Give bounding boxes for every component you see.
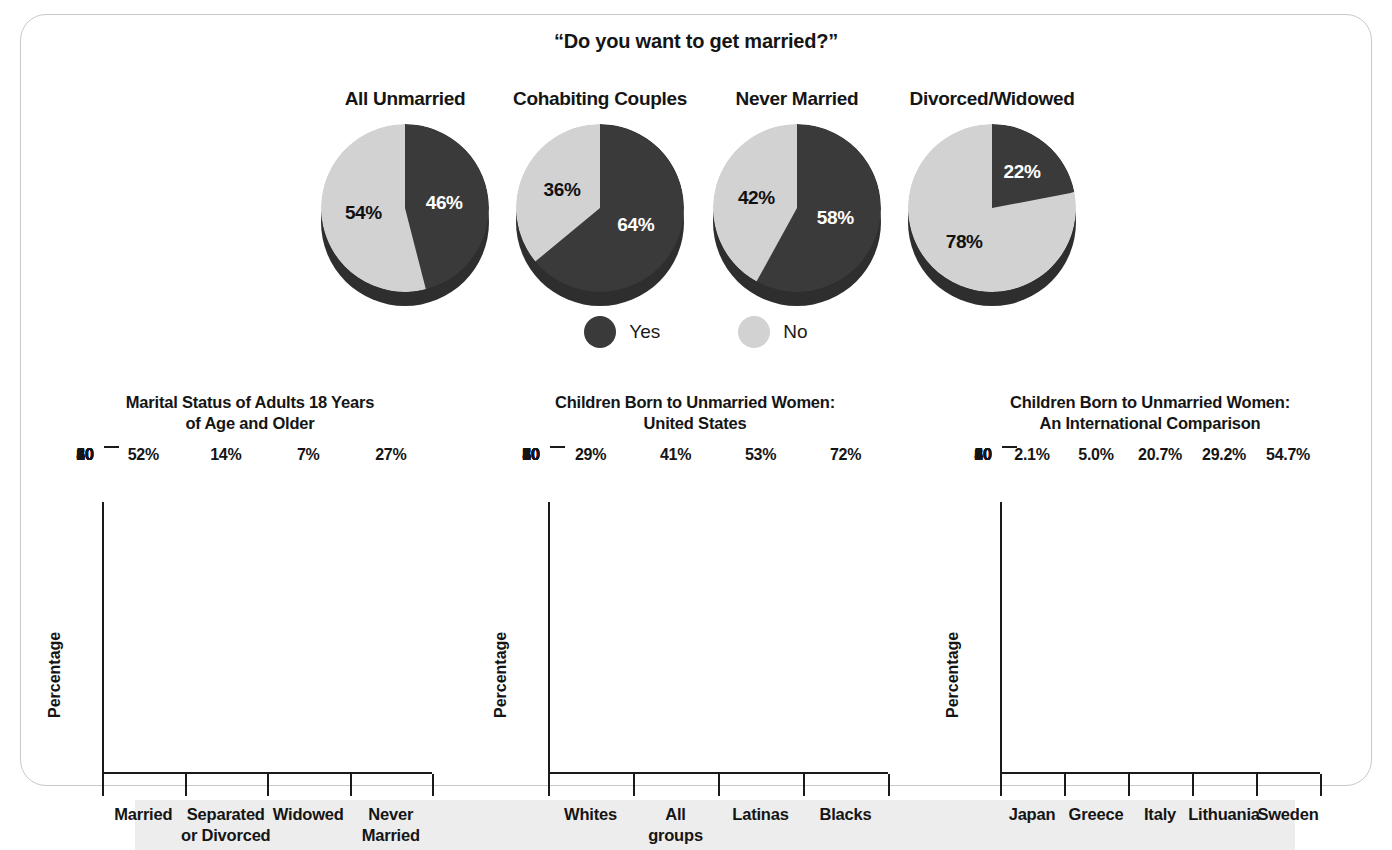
- pie-slice-value-yes: 64%: [617, 214, 654, 236]
- x-axis-separator-tick: [718, 774, 720, 796]
- plot-area: 6050403020100Percentage52%Married14%Sepa…: [30, 446, 470, 836]
- bar-chart-title-line1: Children Born to Unmarried Women:: [930, 392, 1370, 413]
- x-axis-separator-tick: [432, 774, 434, 796]
- bar-chart-title: Children Born to Unmarried Women:United …: [470, 392, 920, 434]
- pie-chart-block-2: Cohabiting Couples64%36%: [485, 88, 715, 310]
- bar-value-label: 5.0%: [1064, 446, 1128, 464]
- x-axis-line: [1000, 772, 1320, 774]
- y-axis-line: [1000, 502, 1002, 772]
- bar-value-label: 27%: [350, 446, 433, 464]
- pie-disc: [516, 124, 684, 292]
- category-label-line: Married: [338, 825, 445, 846]
- x-axis-separator-tick: [1000, 774, 1002, 796]
- pie-slice-value-no: 42%: [738, 187, 775, 209]
- pie-slice-value-no: 54%: [345, 202, 382, 224]
- x-axis-separator-tick: [185, 774, 187, 796]
- bar-value-label: 29.2%: [1192, 446, 1256, 464]
- bar-value-label: 72%: [803, 446, 888, 464]
- bar-chart-title-line2: of Age and Older: [30, 413, 470, 434]
- y-axis-tick-label: 0: [954, 446, 992, 464]
- bar-value-label: 52%: [102, 446, 185, 464]
- plot-area: 80706050403020100Percentage29%Whites41%A…: [470, 446, 920, 836]
- category-label-line: Blacks: [791, 804, 900, 825]
- pie-slice-value-yes: 58%: [817, 207, 854, 229]
- pie-chart[interactable]: 58%42%: [713, 124, 881, 310]
- legend-swatch-icon: [584, 316, 616, 348]
- pie-chart[interactable]: 22%78%: [908, 124, 1076, 310]
- x-axis-separator-tick: [803, 774, 805, 796]
- bar-chart-title: Marital Status of Adults 18 Yearsof Age …: [30, 392, 470, 434]
- bar-chart-panel-1: Marital Status of Adults 18 Yearsof Age …: [30, 392, 470, 792]
- bar-value-label: 53%: [718, 446, 803, 464]
- pie-chart-label: Cohabiting Couples: [485, 88, 715, 110]
- pie-chart-label: Divorced/Widowed: [877, 88, 1107, 110]
- x-axis-separator-tick: [1192, 774, 1194, 796]
- bar-chart-panel-2: Children Born to Unmarried Women:United …: [470, 392, 920, 792]
- legend-label: Yes: [629, 321, 660, 343]
- legend-label: No: [783, 321, 807, 343]
- bar-chart-title: Children Born to Unmarried Women:An Inte…: [930, 392, 1370, 434]
- pie-section-title: “Do you want to get married?”: [0, 30, 1392, 53]
- legend-swatch-icon: [738, 316, 770, 348]
- bar-chart-panel-3: Children Born to Unmarried Women:An Inte…: [930, 392, 1370, 792]
- pie-chart-block-4: Divorced/Widowed22%78%: [877, 88, 1107, 310]
- bar-chart-title-line1: Marital Status of Adults 18 Years: [30, 392, 470, 413]
- x-axis-separator-tick: [1320, 774, 1322, 796]
- y-axis-title: Percentage: [46, 632, 64, 718]
- x-axis-category-label: NeverMarried: [338, 804, 445, 845]
- bar-value-label: 41%: [633, 446, 718, 464]
- bar-value-label: 2.1%: [1000, 446, 1064, 464]
- pie-disc: [908, 124, 1076, 292]
- bar-chart-title-line2: United States: [470, 413, 920, 434]
- x-axis-separator-tick: [350, 774, 352, 796]
- y-axis-tick-label: 0: [502, 446, 540, 464]
- y-axis-tick-label: 0: [56, 446, 94, 464]
- x-axis-category-label: Blacks: [791, 804, 900, 825]
- x-axis-separator-tick: [1064, 774, 1066, 796]
- category-label-line: groups: [621, 825, 730, 846]
- bar-value-label: 14%: [185, 446, 268, 464]
- legend-item-yes[interactable]: Yes: [584, 316, 660, 348]
- category-label-line: Never: [338, 804, 445, 825]
- bar-value-label: 54.7%: [1256, 446, 1320, 464]
- pie-slice-value-no: 78%: [946, 231, 983, 253]
- bar-chart-title-line2: An International Comparison: [930, 413, 1370, 434]
- y-axis-line: [548, 502, 550, 772]
- x-axis-separator-tick: [888, 774, 890, 796]
- y-axis-line: [102, 502, 104, 772]
- x-axis-category-label: Sweden: [1244, 804, 1332, 825]
- pie-slice-value-yes: 22%: [1004, 161, 1041, 183]
- y-axis-title: Percentage: [944, 632, 962, 718]
- x-axis-separator-tick: [1256, 774, 1258, 796]
- pie-chart[interactable]: 64%36%: [516, 124, 684, 310]
- x-axis-separator-tick: [1128, 774, 1130, 796]
- plot-area: 6050403020100Percentage2.1%Japan5.0%Gree…: [930, 446, 1370, 836]
- pie-slice-value-yes: 46%: [426, 192, 463, 214]
- category-label-line: Sweden: [1244, 804, 1332, 825]
- y-axis-title: Percentage: [492, 632, 510, 718]
- pie-legend: YesNo: [0, 316, 1392, 348]
- x-axis-separator-tick: [548, 774, 550, 796]
- pie-chart[interactable]: 46%54%: [321, 124, 489, 310]
- x-axis-separator-tick: [633, 774, 635, 796]
- bar-value-label: 20.7%: [1128, 446, 1192, 464]
- x-axis-separator-tick: [267, 774, 269, 796]
- bar-value-label: 7%: [267, 446, 350, 464]
- x-axis-separator-tick: [102, 774, 104, 796]
- bar-chart-title-line1: Children Born to Unmarried Women:: [470, 392, 920, 413]
- legend-item-no[interactable]: No: [738, 316, 807, 348]
- pie-slice-value-no: 36%: [544, 179, 581, 201]
- bar-value-label: 29%: [548, 446, 633, 464]
- category-label-line: or Divorced: [173, 825, 280, 846]
